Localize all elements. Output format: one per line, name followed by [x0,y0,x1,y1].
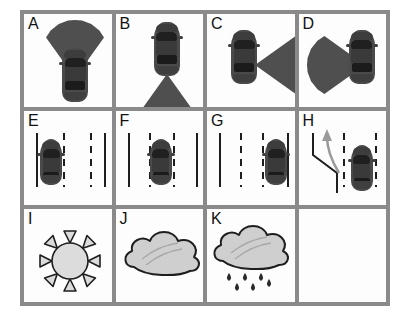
car-top-down-icon [349,30,375,84]
cell-label-d: D [303,14,315,34]
sun-glyph [24,209,112,302]
lane-divider-2 [262,133,264,187]
car-top-down-icon [40,139,62,185]
cell-label-a: A [28,14,39,34]
lane-edge-right [104,133,106,187]
grid-cell-j[interactable]: J [116,209,204,302]
cell-label-k: K [211,209,222,229]
lane-edge-left [219,133,221,187]
cell-label-g: G [211,111,223,131]
lane-edge-right [196,133,198,187]
car-top-down-icon [265,139,287,185]
sensor-cone-rear-icon [138,74,196,107]
car-top-down-icon [231,30,257,84]
grid-cell-empty[interactable] [299,209,387,302]
grid-cell-i[interactable]: I [24,209,112,302]
grid-cell-b[interactable]: B [116,14,204,107]
car-top-down-icon [62,48,88,102]
empty-cell [299,209,387,302]
grid-cell-h[interactable]: H [299,111,387,204]
lane-divider-1 [63,133,65,187]
sensor-cone-right-icon [255,36,295,94]
lane-divider-2 [173,133,175,187]
grid-cell-g[interactable]: G [207,111,295,204]
grid-cell-d[interactable]: D [299,14,387,107]
grid-cell-k[interactable]: K [207,209,295,302]
cell-label-h: H [303,111,315,131]
grid-cell-e[interactable]: E [24,111,112,204]
grid-cell-f[interactable]: F [116,111,204,204]
cell-label-c: C [211,14,223,34]
sun-icon [24,209,112,302]
car-top-down-icon [351,145,373,191]
lane-divider-2 [90,133,92,187]
cloud-glyph [116,209,204,302]
lane-divider-1 [240,133,242,187]
lane-edge-left [36,133,38,187]
cell-label-e: E [28,111,39,131]
cell-label-f: F [120,111,130,131]
car-top-down-icon [150,139,172,185]
lane-edge-right [287,133,289,187]
icon-legend-grid: A B C [20,10,390,306]
cloud-icon [116,209,204,302]
lane-divider-1 [343,133,345,187]
cell-label-i: I [28,209,32,229]
car-top-down-icon [154,22,180,76]
cell-label-b: B [120,14,131,34]
grid-cell-c[interactable]: C [207,14,295,107]
lane-edge-left [128,133,130,187]
cell-label-j: J [120,209,128,229]
raindrops [227,273,271,291]
grid-cell-a[interactable]: A [24,14,112,107]
